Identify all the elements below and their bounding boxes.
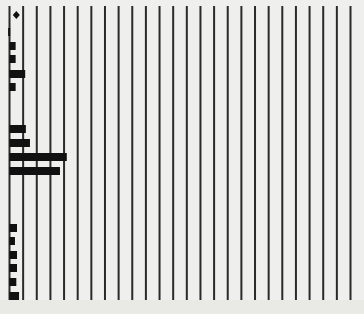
bar (8, 28, 10, 36)
bar (10, 278, 17, 286)
bar (10, 292, 20, 300)
bar (10, 224, 18, 232)
bar (10, 83, 16, 91)
bar (10, 139, 30, 147)
bar-chart (0, 0, 364, 314)
bar (10, 55, 16, 63)
bar (10, 153, 67, 161)
bar (10, 42, 16, 50)
bar (10, 125, 26, 133)
bar (10, 70, 26, 78)
diamond-marker-icon (13, 11, 20, 19)
bar (10, 251, 18, 259)
bar (10, 237, 15, 245)
bar (10, 167, 60, 175)
bar (10, 264, 18, 272)
